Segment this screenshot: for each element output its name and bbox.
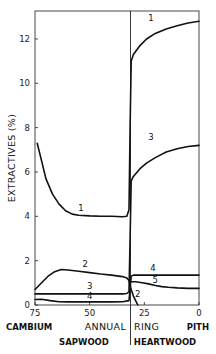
curve-labels: 113234452 <box>78 13 158 301</box>
curve-label: 3 <box>148 132 153 142</box>
x-tick-label: 75 <box>30 308 41 318</box>
x-tick-label: 25 <box>139 308 150 318</box>
x-label-ring: RING <box>134 321 159 332</box>
y-tick-label: 8 <box>25 123 30 133</box>
region-label-heartwood: HEARTWOOD <box>134 337 196 347</box>
y-tick-label: 12 <box>19 34 30 44</box>
curve-label: 4 <box>87 291 92 301</box>
curve-label: 3 <box>87 281 92 291</box>
curve-5 <box>131 282 199 289</box>
y-tick-label: 4 <box>25 211 30 221</box>
y-tick-label: 2 <box>25 256 30 266</box>
x-tick-label: 50 <box>84 308 95 318</box>
curve-label: 4 <box>150 263 155 273</box>
x-label-annual: ANNUAL <box>85 321 127 332</box>
y-axis-label: EXTRACTIVES (%) <box>6 114 17 202</box>
x-label-cambium: CAMBIUM <box>6 322 52 332</box>
y-tick-label: 6 <box>25 167 30 177</box>
y-tick-label: 10 <box>19 78 30 88</box>
region-label-sapwood: SAPWOOD <box>59 337 109 347</box>
x-axis: 7550250 <box>30 302 202 318</box>
curves <box>35 21 199 305</box>
plot-frame <box>35 11 199 305</box>
curve-label: 2 <box>83 259 88 269</box>
curve-label: 2 <box>135 289 140 299</box>
x-label-pith: PITH <box>187 322 209 332</box>
curve-label: 1 <box>78 203 83 213</box>
x-tick-label: 0 <box>196 308 201 318</box>
curve-label: 5 <box>153 275 158 285</box>
curve-3 <box>35 145 199 294</box>
curve-label: 1 <box>148 13 153 23</box>
curve-1 <box>37 21 199 217</box>
extractives-chart: 024681012 7550250 113234452 EXTRACTIVES … <box>0 0 216 354</box>
